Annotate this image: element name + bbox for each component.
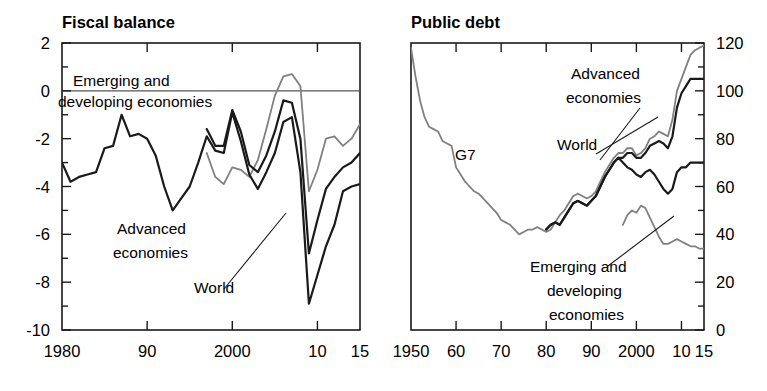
y-axis-tick-label: -2 — [35, 130, 50, 148]
x-axis-tick-label: 10 — [308, 342, 326, 360]
public-debt-svg: Public debt 1201008060402001950607080902… — [383, 0, 767, 391]
annotation-label: developing economies — [58, 93, 212, 110]
figure-two-panel-chart: Fiscal balance 20-2-4-6-8-10198090200010… — [0, 0, 767, 391]
annotation-label: G7 — [455, 146, 476, 163]
y-axis-tick-label: 20 — [716, 273, 734, 291]
y-axis-tick-label: -4 — [35, 178, 50, 196]
x-axis-tick-label: 80 — [537, 342, 555, 360]
annotation-label: World — [557, 136, 597, 153]
y-axis-tick-label: 0 — [716, 321, 725, 339]
y-axis-tick-label: -8 — [35, 273, 50, 291]
series-line-advanced-economies — [62, 112, 360, 303]
page-title-public-debt: Public debt — [411, 13, 500, 31]
y-axis-tick-label: 120 — [716, 34, 744, 52]
leader-line-world — [224, 213, 286, 289]
fiscal-plot-group: 20-2-4-6-8-1019809020001015Emerging andd… — [26, 34, 369, 360]
fiscal-balance-svg: Fiscal balance 20-2-4-6-8-10198090200010… — [0, 0, 384, 391]
annotation-label: developing — [547, 282, 622, 299]
series-line-emerging-and-developing-economies — [623, 206, 704, 249]
y-axis-tick-label: -10 — [26, 321, 50, 339]
x-axis-tick-label: 15 — [351, 342, 369, 360]
y-axis-tick-label: 100 — [716, 82, 744, 100]
x-axis-tick-label: 2000 — [618, 342, 655, 360]
panel-public-debt: Public debt 1201008060402001950607080902… — [383, 0, 767, 391]
annotation-label: World — [194, 279, 234, 296]
annotation-label: Emerging and — [530, 258, 627, 275]
x-axis-tick-label: 15 — [695, 342, 713, 360]
x-axis-tick-label: 90 — [582, 342, 600, 360]
y-axis-tick-label: 0 — [41, 82, 50, 100]
y-axis-tick-label: 2 — [41, 34, 50, 52]
annotation-label: Emerging and — [73, 72, 170, 89]
x-axis-tick-label: 1950 — [393, 342, 430, 360]
x-axis-tick-label: 60 — [447, 342, 465, 360]
annotation-label: Advanced — [117, 220, 186, 237]
x-axis-tick-label: 10 — [672, 342, 690, 360]
annotation-label: economies — [566, 89, 641, 106]
y-axis-tick-label: 80 — [716, 130, 734, 148]
x-axis-tick-label: 70 — [492, 342, 510, 360]
annotation-label: economies — [113, 244, 188, 261]
x-axis-tick-label: 1980 — [44, 342, 81, 360]
y-axis-tick-label: 60 — [716, 178, 734, 196]
debt-plot-group: 12010080604020019506070809020001015G7Adv… — [393, 34, 744, 360]
y-axis-tick-label: 40 — [716, 225, 734, 243]
y-axis-tick-label: -6 — [35, 225, 50, 243]
x-axis-tick-label: 2000 — [214, 342, 251, 360]
x-axis-tick-label: 90 — [138, 342, 156, 360]
annotation-label: economies — [549, 306, 624, 323]
annotation-label: Advanced — [571, 65, 640, 82]
page-title-fiscal-balance: Fiscal balance — [62, 13, 175, 31]
panel-fiscal-balance: Fiscal balance 20-2-4-6-8-10198090200010… — [0, 0, 384, 391]
